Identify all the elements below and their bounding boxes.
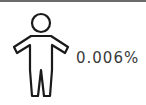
top-divider xyxy=(0,0,146,2)
percentage-value: 0.006% xyxy=(76,49,139,67)
person-icon xyxy=(10,10,72,100)
